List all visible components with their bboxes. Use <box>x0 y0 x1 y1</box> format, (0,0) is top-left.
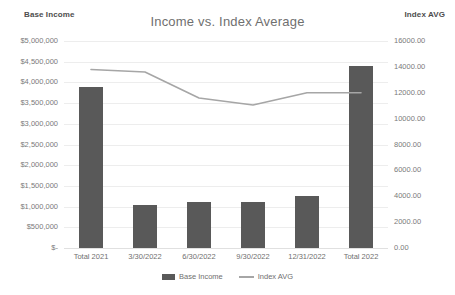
bar-slot <box>226 41 280 248</box>
y-axis-right-tick-label: 4000.00 <box>394 192 421 200</box>
bar-slot <box>172 41 226 248</box>
y-axis-left-tick-label: $500,000 <box>27 223 58 231</box>
legend-item[interactable]: Index AVG <box>239 272 293 281</box>
y-axis-left-tick-label: $1,000,000 <box>20 203 58 211</box>
y-axis-right-tick-label: 0.00 <box>394 244 409 252</box>
y-axis-left-tick-label: $4,000,000 <box>20 78 58 86</box>
y-axis-right-tick-label: 8000.00 <box>394 141 421 149</box>
legend-item[interactable]: Base Income <box>162 272 223 281</box>
bar-slot <box>118 41 172 248</box>
y-axis-left-tick-label: $2,500,000 <box>20 141 58 149</box>
x-axis-tick-label: 12/31/2022 <box>280 252 334 261</box>
y-axis-right-tick-label: 6000.00 <box>394 166 421 174</box>
chart-legend: Base IncomeIndex AVG <box>0 272 455 281</box>
plot-area: $-$500,000$1,000,000$1,500,000$2,000,000… <box>64 41 388 248</box>
chart-title: Income vs. Index Average <box>0 14 455 29</box>
x-axis-tick-label: 3/30/2022 <box>118 252 172 261</box>
y-axis-left-tick-label: $1,500,000 <box>20 182 58 190</box>
bar-9-30-2022[interactable] <box>241 202 265 248</box>
y-axis-right-tick-label: 16000.00 <box>394 37 425 45</box>
bar-slot <box>64 41 118 248</box>
bar-total-2022[interactable] <box>349 66 373 248</box>
gridline <box>64 248 388 249</box>
y-axis-left-tick-label: $3,500,000 <box>20 99 58 107</box>
legend-bar-swatch-icon <box>162 274 175 280</box>
chart-container: Base Income Index AVG Income vs. Index A… <box>0 0 455 295</box>
y-axis-left-tick-label: $- <box>51 244 58 252</box>
y-axis-right-tick-label: 12000.00 <box>394 89 425 97</box>
x-axis-tick-label: 6/30/2022 <box>172 252 226 261</box>
bar-total-2021[interactable] <box>79 87 103 248</box>
bar-slot <box>280 41 334 248</box>
bar-3-30-2022[interactable] <box>133 205 157 248</box>
bar-6-30-2022[interactable] <box>187 202 211 248</box>
x-axis-tick-label: Total 2021 <box>64 252 118 261</box>
bar-slot <box>334 41 388 248</box>
x-axis-tick-label: 9/30/2022 <box>226 252 280 261</box>
y-axis-left-tick-label: $5,000,000 <box>20 37 58 45</box>
legend-label: Base Income <box>179 272 223 281</box>
y-axis-right-tick-label: 2000.00 <box>394 218 421 226</box>
y-axis-left-tick-label: $2,000,000 <box>20 161 58 169</box>
y-axis-right-tick-label: 10000.00 <box>394 115 425 123</box>
bar-12-31-2022[interactable] <box>295 196 319 248</box>
x-axis-tick-label: Total 2022 <box>334 252 388 261</box>
y-axis-left-tick-label: $4,500,000 <box>20 58 58 66</box>
legend-line-swatch-icon <box>239 276 254 278</box>
y-axis-left-tick-label: $3,000,000 <box>20 120 58 128</box>
y-axis-right-tick-label: 14000.00 <box>394 63 425 71</box>
legend-label: Index AVG <box>258 272 293 281</box>
x-axis-labels: Total 20213/30/20226/30/20229/30/202212/… <box>64 252 388 261</box>
bar-series-base-income <box>64 41 388 248</box>
